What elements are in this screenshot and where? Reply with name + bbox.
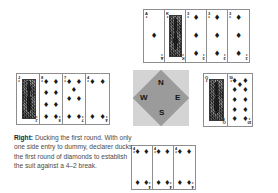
suit-pip: ♦: [235, 50, 242, 58]
suit-pip: ♦: [76, 78, 82, 85]
suit-pip: ♦: [99, 113, 105, 120]
suit-pip: ♦: [164, 149, 170, 156]
suit-pip: ♦: [66, 113, 72, 120]
suit-pip: ♦: [237, 82, 243, 89]
card-pips: ♦♦♦: [228, 10, 249, 62]
court-card-figure: [170, 16, 181, 55]
suit-pip: ♦: [193, 32, 200, 40]
compass-label-north: N: [158, 79, 164, 87]
suit-pip: ♦: [193, 50, 200, 58]
suit-pip: ♦: [143, 179, 149, 186]
card-index: K♦: [182, 53, 184, 60]
suit-pip: ♦: [66, 96, 72, 103]
card-pips: ♦♦♦♦♦♦♦: [63, 74, 85, 124]
playing-card: Q♦Q♦: [203, 73, 228, 127]
court-card-art: [22, 79, 36, 119]
suit-pip: ♦: [43, 113, 49, 120]
caption-lead: Right:: [14, 134, 33, 141]
suit-pip: ♦: [242, 106, 248, 113]
suit-pip: ♦: [214, 50, 221, 58]
card-index: J♦: [36, 115, 38, 122]
court-card-art: [209, 79, 224, 120]
suit-pip: ♦: [235, 32, 242, 40]
suit-pip: ♦: [99, 78, 105, 85]
card-index: J♦: [18, 76, 20, 83]
playing-card: 4♦4♦♦♦♦♦: [152, 145, 174, 190]
suit-pip: ♦: [76, 113, 82, 120]
card-pips: ♦: [144, 10, 164, 62]
suit-pip: ♦: [235, 14, 242, 22]
suit-pip: ♦: [43, 78, 49, 85]
suit-pip: ♦: [66, 78, 72, 85]
playing-card: K♦K♦: [164, 9, 186, 63]
playing-card: 8♦8♦♦♦♦♦♦♦♦♦: [39, 73, 63, 125]
suit-pip: ♦: [53, 102, 59, 109]
suit-pip: ♦: [53, 113, 59, 120]
suit-pip: ♦: [43, 102, 49, 109]
card-pips: ♦♦♦: [186, 10, 206, 62]
north-hand: A♦A♦♦K♦K♦3♦3♦♦♦♦3♦3♦♦♦♦3♦3♦♦♦♦: [143, 9, 250, 63]
suit-pip: ♦: [71, 87, 77, 94]
card-pips: ♦♦♦♦♦♦♦♦: [40, 74, 62, 124]
suit-pip: ♦: [232, 116, 238, 123]
card-pips: ♦♦♦♦: [86, 74, 109, 124]
playing-card: 4♦4♦♦♦♦♦: [173, 145, 196, 190]
suit-pip: ♦: [43, 90, 49, 97]
south-hand: 4♦4♦♦♦♦♦4♦4♦♦♦♦♦4♦4♦♦♦♦♦: [131, 145, 196, 190]
suit-pip: ♦: [156, 149, 162, 156]
suit-pip: ♦: [164, 179, 170, 186]
playing-card: 4♦4♦♦♦♦♦: [85, 73, 110, 125]
suit-pip: ♦: [53, 78, 59, 85]
card-pips: ♦♦♦♦: [153, 146, 173, 189]
playing-card: 10♦10♦♦♦♦♦♦♦♦♦♦♦♦: [227, 73, 253, 127]
suit-pip: ♦: [242, 116, 248, 123]
playing-card: J♦J♦: [16, 73, 40, 125]
card-pips: ♦♦♦: [207, 10, 227, 62]
suit-pip: ♦: [232, 97, 238, 104]
suit-pip: ♦: [177, 149, 183, 156]
suit-pip: ♦: [232, 106, 238, 113]
suit-pip: ♦: [89, 78, 95, 85]
suit-pip: ♦: [53, 90, 59, 97]
playing-card: 3♦3♦♦♦♦: [227, 9, 250, 63]
suit-pip: ♦: [177, 179, 183, 186]
compass-rose: N W E S: [133, 70, 189, 126]
suit-pip: ♦: [186, 149, 192, 156]
court-card-figure: [210, 80, 223, 119]
playing-card: 3♦3♦♦♦♦: [185, 9, 207, 63]
suit-pip: ♦: [214, 14, 221, 22]
suit-pip: ♦: [186, 179, 192, 186]
suit-pip: ♦: [143, 149, 149, 156]
card-pips: ♦♦♦♦: [174, 146, 195, 189]
caption: Right: Ducking the first round. With onl…: [14, 133, 138, 171]
compass-label-south: S: [159, 109, 164, 117]
suit-pip: ♦: [89, 113, 95, 120]
east-hand: Q♦Q♦10♦10♦♦♦♦♦♦♦♦♦♦♦♦: [203, 73, 253, 127]
suit-pip: ♦: [135, 179, 141, 186]
court-card-art: [169, 15, 182, 56]
playing-card: 3♦3♦♦♦♦: [206, 9, 228, 63]
card-index: Q♦: [205, 76, 208, 83]
suit-pip: ♦: [193, 14, 200, 22]
west-hand: J♦J♦8♦8♦♦♦♦♦♦♦♦♦7♦7♦♦♦♦♦♦♦♦4♦4♦♦♦♦♦: [16, 73, 110, 125]
court-card-figure: [23, 80, 35, 118]
suit-pip: ♦: [156, 179, 162, 186]
suit-pip: ♦: [151, 32, 158, 40]
compass-label-west: W: [140, 94, 148, 102]
playing-card: A♦A♦♦: [143, 9, 165, 63]
playing-card: 7♦7♦♦♦♦♦♦♦♦: [62, 73, 86, 125]
card-index: K♦: [166, 12, 168, 19]
suit-pip: ♦: [242, 97, 248, 104]
compass-label-east: E: [175, 94, 180, 102]
suit-pip: ♦: [214, 32, 221, 40]
card-pips: ♦♦♦♦♦♦♦♦♦♦♦: [228, 74, 252, 126]
card-index: Q♦: [223, 117, 226, 124]
suit-pip: ♦: [76, 96, 82, 103]
